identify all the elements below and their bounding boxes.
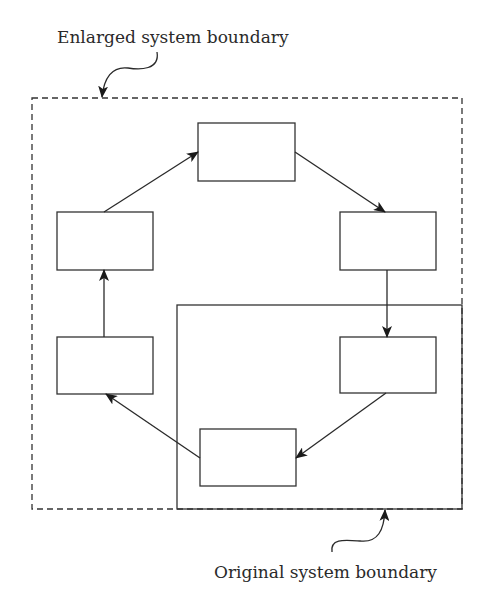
arrow-top-to-right-upper: [295, 152, 385, 212]
arrow-right-lower-to-bottom: [296, 393, 386, 458]
arrow-bottom-to-left-lower: [106, 394, 200, 458]
node-top: [198, 123, 295, 181]
node-left-upper: [57, 212, 153, 270]
enlarged-boundary-label: Enlarged system boundary: [57, 27, 289, 47]
enlarged-callout-arrow-icon: [102, 52, 157, 97]
node-left-lower: [57, 337, 153, 394]
original-callout-arrow-icon: [332, 510, 385, 552]
node-right-upper: [340, 212, 436, 270]
node-bottom: [200, 429, 296, 486]
original-boundary-label: Original system boundary: [214, 562, 437, 582]
arrow-left-upper-to-top: [104, 152, 198, 212]
node-right-lower: [340, 337, 436, 393]
system-boundary-diagram: Enlarged system boundary Original system…: [0, 0, 489, 599]
